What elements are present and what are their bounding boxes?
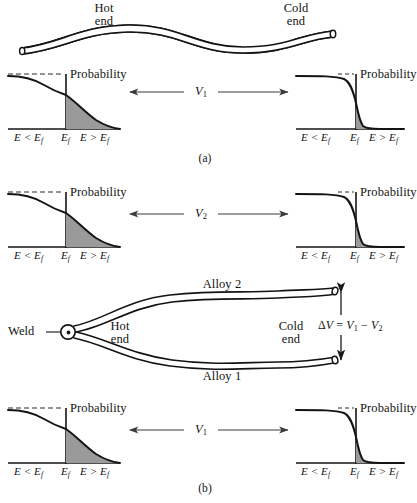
rod-hot-end-cap (20, 47, 25, 54)
delta-v-sub2: 2 (378, 324, 382, 333)
fermi-curve (8, 76, 120, 129)
chart-a-right (296, 74, 404, 130)
shaded-area (66, 95, 120, 129)
probability-label-a-left: Probability (70, 68, 127, 81)
axis-tick-b-lower-left-below: E < Ef (14, 466, 43, 479)
axis-tick-b-upper-left-fermi: Ef (61, 250, 70, 263)
thermocouple-cold-end-line2: end (279, 333, 304, 346)
axis-tick-text: E (61, 249, 68, 261)
axis-tick-text: E < E (301, 131, 328, 143)
axis-tick-a-left-fermi: Ef (61, 132, 70, 145)
fermi-curve (296, 76, 404, 129)
panel-caption-a: (a) (198, 152, 211, 164)
axis-tick-sub: f (357, 470, 359, 479)
alloy-top-label: Alloy 2 (203, 278, 242, 291)
voltage-subscript: 1 (203, 89, 207, 99)
fermi-curve (8, 194, 120, 247)
rod-cold-end-cap (330, 30, 335, 37)
axis-tick-text: E < E (301, 465, 328, 477)
axis-tick-sub: f (107, 136, 109, 145)
shaded-area (66, 429, 120, 463)
axis-tick-a-right-above: E > Ef (369, 132, 398, 145)
axis-tick-b-lower-right-above: E > Ef (369, 466, 398, 479)
axis-tick-a-right-fermi: Ef (350, 132, 359, 145)
rod-cold-end-line2: end (284, 15, 309, 28)
delta-v-prefix: ΔV = V (318, 318, 354, 332)
thermocouple-hot-end-line2: end (110, 333, 129, 346)
axis-tick-text: E (61, 465, 68, 477)
axis-tick-text: E > E (369, 465, 396, 477)
weld-label: Weld (8, 325, 34, 338)
probability-label-b-lower-right: Probability (360, 402, 417, 415)
axis-tick-sub: f (357, 254, 359, 263)
shaded-area (66, 213, 120, 247)
delta-v-formula: ΔV = V1 − V2 (318, 319, 383, 334)
axis-tick-a-right-below: E < Ef (301, 132, 330, 145)
axis-tick-sub: f (107, 470, 109, 479)
thermocouple-hot-end-label: Hot end (110, 320, 129, 346)
fermi-curve (296, 410, 404, 463)
axis-tick-sub: f (41, 136, 43, 145)
axis-tick-b-lower-left-fermi: Ef (61, 466, 70, 479)
axis-tick-text: E (61, 131, 68, 143)
axis-tick-text: E > E (80, 131, 107, 143)
axis-tick-text: E < E (14, 465, 41, 477)
thermocouple-cold-end-label: Cold end (279, 320, 304, 346)
axis-tick-sub: f (396, 136, 398, 145)
axis-tick-text: E > E (369, 249, 396, 261)
fermi-curve (296, 194, 404, 247)
voltage-subscript: 2 (203, 211, 207, 221)
axis-tick-sub: f (357, 136, 359, 145)
axis-tick-sub: f (68, 470, 70, 479)
axis-tick-sub: f (107, 254, 109, 263)
axis-tick-b-upper-right-fermi: Ef (350, 250, 359, 263)
alloy1-cold-end-cap (331, 356, 338, 365)
axis-tick-a-left-below: E < Ef (14, 132, 43, 145)
voltage-label-b-bottom: V1 (195, 423, 207, 437)
axis-tick-b-lower-right-fermi: Ef (350, 466, 359, 479)
panel-caption-b: (b) (198, 482, 212, 494)
chart-b-lower-right (296, 408, 404, 464)
axis-tick-sub: f (328, 254, 330, 263)
axis-tick-text: E > E (80, 249, 107, 261)
axis-tick-text: E < E (14, 249, 41, 261)
voltage-label-a: V1 (195, 85, 207, 99)
chart-a-left (8, 74, 120, 130)
axis-tick-text: E (350, 249, 357, 261)
axis-tick-b-upper-left-above: E > Ef (80, 250, 109, 263)
axis-tick-b-lower-right-below: E < Ef (301, 466, 330, 479)
weld-junction-dot (67, 331, 71, 335)
probability-label-b-upper-left: Probability (70, 186, 127, 199)
delta-v-mid: − V (358, 318, 379, 332)
probability-label-b-lower-left: Probability (70, 402, 127, 415)
chart-b-lower-left (8, 408, 120, 464)
voltage-symbol: V (195, 422, 203, 436)
axis-tick-text: E < E (14, 131, 41, 143)
voltage-subscript: 1 (203, 427, 207, 437)
axis-tick-sub: f (68, 254, 70, 263)
axis-tick-b-upper-right-below: E < Ef (301, 250, 330, 263)
axis-tick-text: E (350, 131, 357, 143)
voltage-symbol: V (195, 206, 203, 220)
axis-tick-sub: f (328, 470, 330, 479)
chart-b-upper-left (8, 192, 120, 248)
axis-tick-sub: f (396, 254, 398, 263)
axis-tick-a-left-above: E > Ef (80, 132, 109, 145)
axis-tick-sub: f (41, 254, 43, 263)
rod-hot-end-label: Hot end (94, 2, 113, 28)
axis-tick-sub: f (396, 470, 398, 479)
voltage-label-b-top: V2 (195, 207, 207, 221)
axis-tick-b-lower-left-above: E > Ef (80, 466, 109, 479)
axis-tick-b-upper-right-above: E > Ef (369, 250, 398, 263)
axis-tick-text: E > E (80, 465, 107, 477)
alloy-bottom-label: Alloy 1 (203, 370, 242, 383)
axis-tick-text: E < E (301, 249, 328, 261)
axis-tick-sub: f (68, 136, 70, 145)
axis-tick-sub: f (41, 470, 43, 479)
axis-tick-b-upper-left-below: E < Ef (14, 250, 43, 263)
rod-panel-a (20, 25, 336, 55)
chart-b-upper-right (296, 192, 404, 248)
axis-tick-text: E (350, 465, 357, 477)
alloy2-cold-end-cap (331, 287, 338, 296)
